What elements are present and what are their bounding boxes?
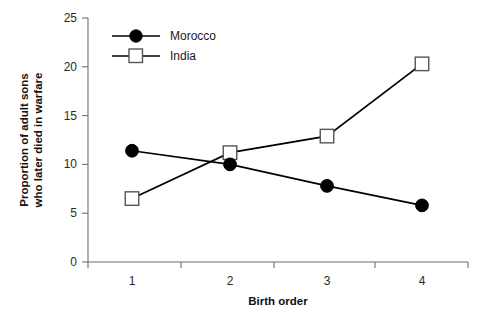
legend-label-india: India [170,49,196,63]
y-tick-label-0: 0 [70,255,77,269]
legend-marker-open-square-icon [129,49,143,63]
x-tick-label-4: 4 [419,274,426,288]
y-axis-ticks: 0 5 10 15 20 25 [64,11,88,269]
y-tick-label-15: 15 [64,109,78,123]
y-tick-label-10: 10 [64,157,78,171]
y-axis-title: Proportion of adult sons who later died … [18,73,44,209]
data-point-marker-open-square [223,146,237,160]
x-tick-label-3: 3 [324,274,331,288]
chart-figure: Proportion of adult sons who later died … [0,0,486,316]
data-point-marker-open-square [415,57,429,71]
y-tick-label-20: 20 [64,60,78,74]
y-tick-label-5: 5 [70,206,77,220]
series-markers-morocco [126,144,429,211]
data-point-marker-filled-circle [126,144,139,157]
data-point-marker-open-square [320,129,334,143]
x-tick-label-2: 2 [227,274,234,288]
y-axis-title-line1: Proportion of adult sons [18,73,30,207]
legend-label-morocco: Morocco [170,29,216,43]
data-point-marker-filled-circle [321,179,334,192]
data-point-marker-filled-circle [224,158,237,171]
legend-marker-filled-circle-icon [130,30,142,42]
series-markers-india [125,57,429,205]
data-point-marker-filled-circle [416,199,429,212]
series-line-india [132,64,422,199]
y-tick-label-25: 25 [64,11,78,25]
chart-legend: Morocco India [112,29,216,63]
x-tick-label-1: 1 [129,274,136,288]
line-chart-canvas: Proportion of adult sons who later died … [0,0,486,316]
x-axis-title: Birth order [248,295,308,307]
y-axis-title-line2: who later died in warfare [32,73,44,209]
x-axis-ticks: 1 2 3 4 [88,262,468,288]
data-point-marker-open-square [125,192,139,206]
